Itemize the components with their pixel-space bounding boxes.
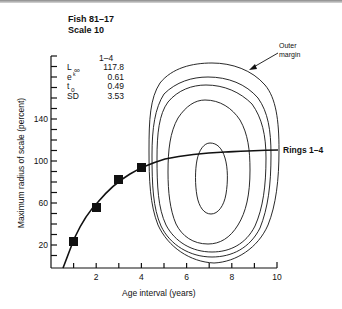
data-point-age-3 — [114, 175, 123, 184]
param-sd-value: 3.53 — [107, 91, 124, 101]
param-t0-label: t — [67, 81, 70, 91]
ring-2 — [168, 100, 250, 244]
x-tick-8: 8 — [229, 272, 234, 282]
outer-margin-label-2: margin — [279, 51, 301, 59]
param-t0-value: 0.49 — [107, 81, 124, 91]
growth-chart: Fish 81–17 Scale 10 1–4 L ∞ 117.8 e k 0.… — [0, 0, 342, 309]
chart-title: Fish 81–17 — [68, 14, 114, 24]
x-tick-10: 10 — [272, 272, 282, 282]
x-axis — [51, 262, 277, 268]
rings-label: Rings 1–4 — [283, 145, 323, 155]
y-axis-label: Maximum radius of scale (percent) — [16, 98, 26, 229]
x-tick-6: 6 — [184, 272, 189, 282]
outer-margin-annotation: Outer margin — [249, 42, 301, 70]
data-point-age-2 — [92, 203, 101, 212]
param-sd-label: SD — [67, 91, 79, 101]
x-axis-label: Age interval (years) — [122, 288, 196, 298]
y-tick-60: 60 — [39, 198, 49, 208]
data-point-age-4 — [137, 163, 146, 172]
param-linf-value: 117.8 — [103, 62, 124, 72]
outer-margin-label-1: Outer — [279, 42, 297, 49]
scale-rings — [149, 63, 279, 263]
parameter-table: 1–4 L ∞ 117.8 e k 0.61 t o 0.49 SD 3.53 — [67, 53, 124, 101]
x-tick-2: 2 — [94, 272, 99, 282]
data-points — [69, 163, 146, 246]
y-tick-20: 20 — [39, 240, 49, 250]
data-point-age-1 — [69, 237, 78, 246]
y-tick-140: 140 — [34, 114, 48, 124]
param-linf-label: L — [67, 62, 72, 72]
chart-subtitle: Scale 10 — [68, 25, 104, 35]
x-tick-4: 4 — [139, 272, 144, 282]
y-axis — [51, 56, 57, 268]
y-tick-100: 100 — [34, 156, 48, 166]
